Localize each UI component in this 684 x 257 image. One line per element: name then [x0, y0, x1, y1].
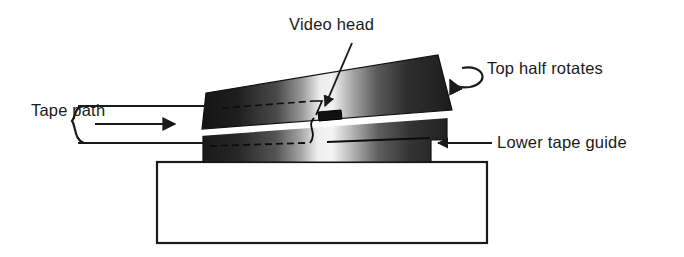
label-video-head: Video head — [289, 16, 374, 33]
diagram-canvas — [0, 0, 684, 257]
rotation-arrow — [450, 67, 482, 87]
video-head-chip — [318, 110, 342, 121]
video-head-drum-diagram: Video head Top half rotates Tape path Lo… — [0, 0, 684, 257]
label-top-half-rotates: Top half rotates — [487, 60, 603, 77]
label-lower-tape-guide: Lower tape guide — [497, 134, 627, 151]
label-tape-path: Tape path — [31, 102, 105, 119]
base-block — [157, 162, 487, 243]
